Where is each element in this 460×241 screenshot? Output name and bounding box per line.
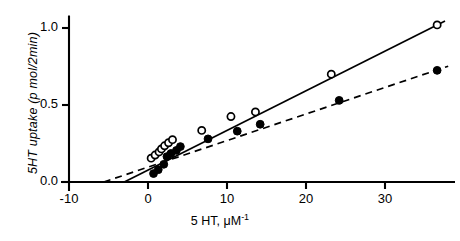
chart-figure: 5HT uptake (p mol/2min) 0.0 0.5 1.0 -10 … bbox=[0, 0, 460, 241]
plot-area bbox=[0, 0, 460, 241]
axes-lines bbox=[61, 16, 455, 191]
